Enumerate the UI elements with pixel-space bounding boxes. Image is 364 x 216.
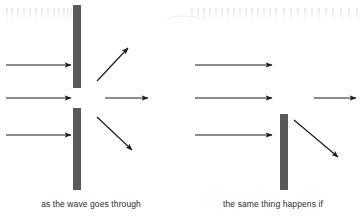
left-barrier-upper-segment bbox=[73, 5, 81, 88]
right-panel-caption: the same thing happens if bbox=[182, 199, 364, 210]
right-barrier bbox=[280, 114, 288, 190]
figure-background bbox=[0, 0, 364, 216]
wave-diffraction-figure bbox=[0, 0, 364, 216]
left-barrier-lower-segment bbox=[73, 108, 81, 190]
left-panel-caption: as the wave goes through bbox=[0, 199, 182, 210]
